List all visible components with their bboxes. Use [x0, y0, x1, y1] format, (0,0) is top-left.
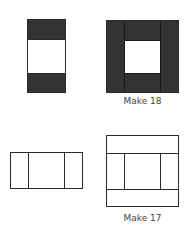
inner-vline-right	[160, 21, 161, 92]
column-divider-left	[28, 153, 29, 188]
figure-top-right	[106, 20, 179, 93]
column-divider-right	[160, 154, 161, 189]
column-divider-left	[124, 154, 125, 189]
center-window	[125, 40, 160, 74]
caption-make-18: Make 18	[106, 96, 179, 106]
figure-bottom-right	[106, 135, 179, 207]
column-divider-right	[64, 153, 65, 188]
row-divider-bottom	[107, 189, 178, 190]
divider-top	[28, 39, 65, 40]
row-divider-top	[107, 153, 178, 154]
caption-make-17: Make 17	[106, 213, 179, 223]
figure-top-left	[27, 19, 66, 93]
figure-bottom-left	[10, 152, 83, 189]
dark-top-band	[28, 20, 65, 39]
dark-bottom-band	[28, 74, 65, 92]
